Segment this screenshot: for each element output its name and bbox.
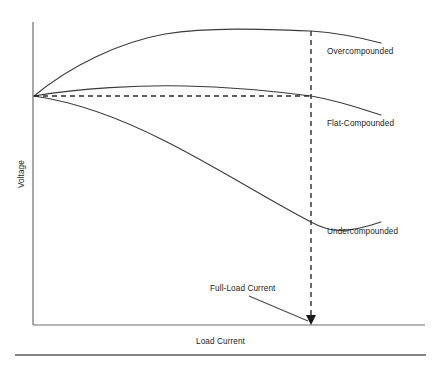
- curve-flat-compounded: [34, 86, 381, 115]
- compound-generator-voltage-chart: Overcompounded Flat-Compounded Undercomp…: [0, 0, 441, 366]
- curve-undercompounded: [34, 96, 381, 230]
- series-label-overcompounded: Overcompounded: [327, 48, 393, 56]
- curve-overcompounded: [34, 29, 381, 96]
- series-label-flat-compounded: Flat-Compounded: [327, 120, 394, 128]
- x-axis-label: Load Current: [0, 338, 441, 346]
- y-axis-label: Voltage: [18, 144, 26, 204]
- full-load-current-leader-line: [249, 296, 308, 321]
- series-label-undercompounded: Undercompounded: [327, 228, 398, 236]
- annotation-label-full-load-current: Full-Load Current: [210, 285, 275, 293]
- full-load-current-arrowhead: [306, 315, 316, 325]
